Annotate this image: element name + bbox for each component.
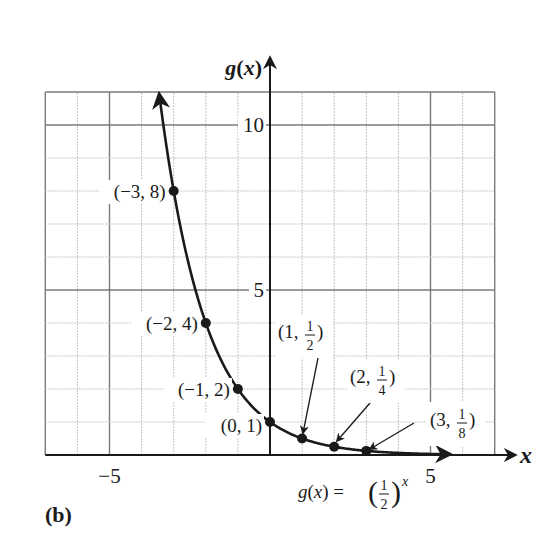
figure-caption: (b) [45,502,72,528]
point-label: (0, 1) [221,415,262,437]
point-label-lead: (1, [278,321,299,343]
fraction-denominator: 8 [459,426,466,441]
exponential-graph: xg(x)−55510(−3, 8)(−2, 4)(−1, 2)(0, 1)(1… [0,0,560,536]
x-tick-label: −5 [98,464,120,488]
point-label: (3, 18) [427,402,485,446]
x-axis-label: x [519,442,532,468]
data-point [169,186,179,196]
point-label: (2, 14) [347,359,405,403]
point-label-close: ) [389,366,395,388]
data-point [361,446,371,456]
y-tick-label: 5 [254,278,265,302]
function-label: g(x) = (12)x [298,474,409,512]
fraction-numerator: 1 [379,364,386,379]
point-label-lead: (3, [430,409,451,431]
fraction-numerator: 1 [307,319,314,334]
point-label: (1, 12) [275,314,333,358]
point-label-close: ) [469,409,475,431]
fraction-denominator: 4 [379,383,386,398]
function-label-paren-close: ) [391,475,401,509]
data-point [329,442,339,452]
fraction-numerator: 1 [459,407,466,422]
data-point [233,384,243,394]
data-point [297,434,307,444]
point-label: (−1, 2) [178,379,230,401]
point-label-lead: (2, [350,366,371,388]
fraction-denominator: 2 [307,338,314,353]
function-label-num: 1 [381,478,388,493]
point-label: (−3, 8) [114,181,166,203]
data-point [265,417,275,427]
function-label-paren-open: ( [368,475,378,509]
point-label-close: ) [317,321,323,343]
y-tick-label: 10 [243,113,264,137]
point-label: (−2, 4) [146,313,198,335]
x-tick-label: 5 [425,464,436,488]
function-label-exponent: x [401,474,409,489]
function-label-lhs: g(x) = [298,481,344,503]
function-label-den: 2 [381,497,388,512]
y-axis-label: g(x) [224,55,262,80]
data-point [201,318,211,328]
leader-arrow [370,423,414,449]
